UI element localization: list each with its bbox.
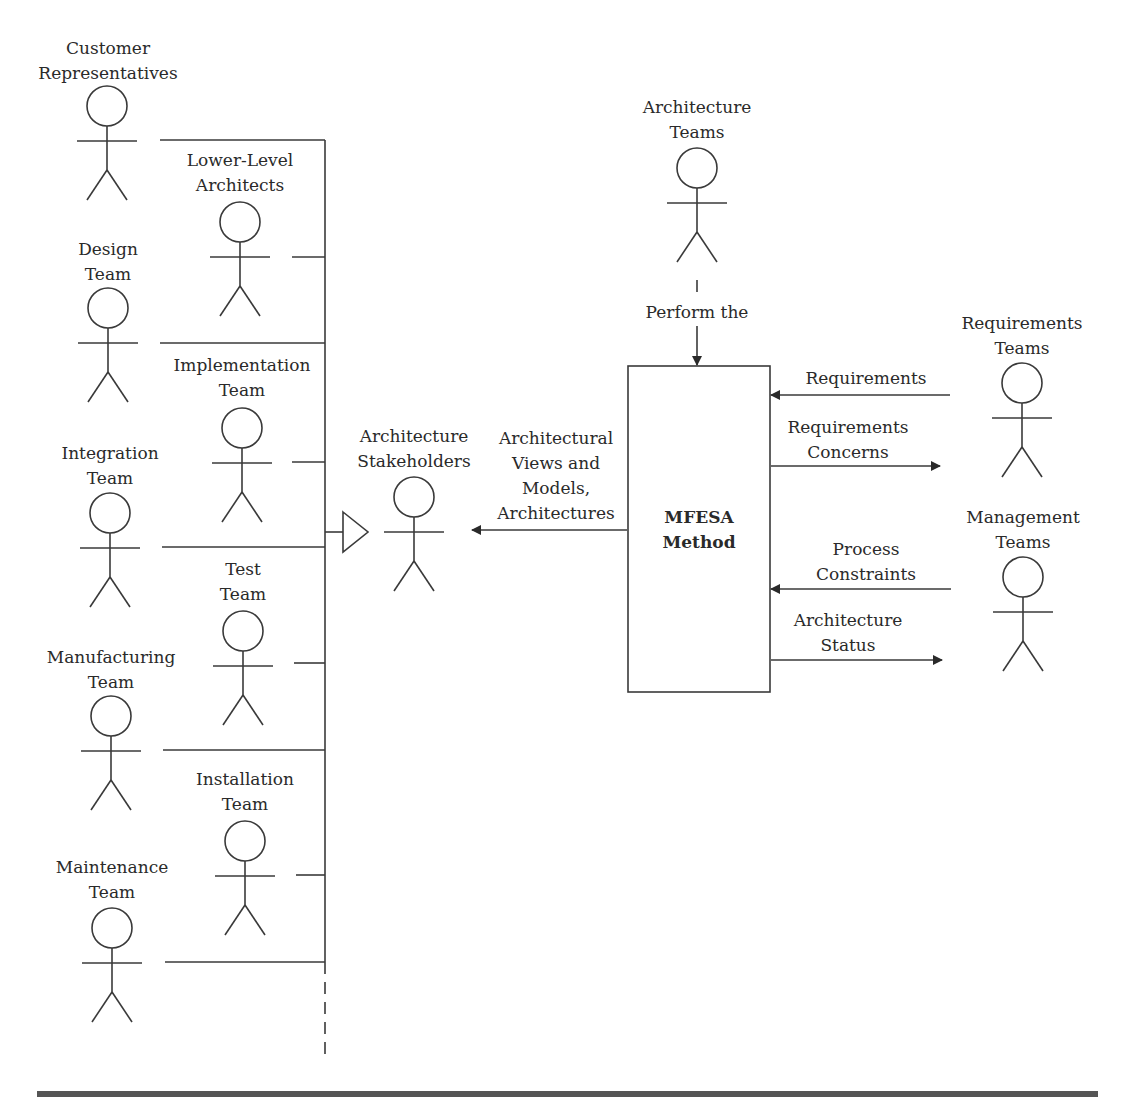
label-manufacturing-team: ManufacturingTeam	[47, 645, 176, 695]
label-test-team: TestTeam	[220, 557, 266, 607]
actor-integration-team	[80, 493, 140, 607]
diagram-canvas	[0, 0, 1124, 1108]
label-maintenance-team: MaintenanceTeam	[56, 855, 168, 905]
label-management-teams: ManagementTeams	[966, 505, 1080, 555]
actor-architecture-stakeholders	[384, 477, 444, 591]
label-perform-the: Perform the	[646, 300, 749, 325]
actor-design-team	[78, 288, 138, 402]
label-customer-representatives: CustomerRepresentatives	[38, 36, 177, 86]
actor-architecture-teams	[667, 148, 727, 262]
label-lower-level-architects: Lower-LevelArchitects	[187, 148, 293, 198]
label-architecture-status: ArchitectureStatus	[794, 608, 903, 658]
label-process-constraints: ProcessConstraints	[816, 537, 916, 587]
actor-management-teams	[993, 557, 1053, 671]
generalization-triangle-icon	[343, 512, 368, 552]
actor-manufacturing-team	[81, 696, 141, 810]
label-architecture-stakeholders: ArchitectureStakeholders	[357, 424, 470, 474]
label-installation-team: InstallationTeam	[196, 767, 294, 817]
label-requirements-teams: RequirementsTeams	[961, 311, 1082, 361]
actor-installation-team	[215, 821, 275, 935]
label-design-team: DesignTeam	[78, 237, 138, 287]
actor-customer-representatives	[77, 86, 137, 200]
label-implementation-team: ImplementationTeam	[174, 353, 311, 403]
label-requirements-concerns: RequirementsConcerns	[787, 415, 908, 465]
actor-test-team	[213, 611, 273, 725]
actor-implementation-team	[212, 408, 272, 522]
label-architecture-teams: ArchitectureTeams	[643, 95, 752, 145]
actor-maintenance-team	[82, 908, 142, 1022]
label-requirements: Requirements	[805, 366, 926, 391]
label-architectural-outputs: ArchitecturalViews andModels,Architectur…	[497, 426, 614, 526]
label-integration-team: IntegrationTeam	[61, 441, 158, 491]
actor-requirements-teams	[992, 363, 1052, 477]
label-mfesa-method: MFESAMethod	[662, 505, 735, 555]
actor-lower-level-architects	[210, 202, 270, 316]
